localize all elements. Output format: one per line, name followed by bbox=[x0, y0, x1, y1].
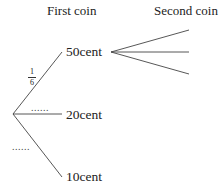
label-10cent: 10cent bbox=[66, 169, 102, 185]
tree-diagram-lines bbox=[0, 0, 219, 194]
second-branch-1 bbox=[111, 30, 189, 52]
probability-blank-20cent: ...... bbox=[31, 102, 49, 113]
label-50cent: 50cent bbox=[66, 44, 102, 60]
probability-blank-10cent: ...... bbox=[12, 141, 30, 152]
label-20cent: 20cent bbox=[66, 107, 102, 123]
second-branch-3 bbox=[111, 52, 189, 74]
probability-50cent: 1 6 bbox=[27, 68, 37, 87]
